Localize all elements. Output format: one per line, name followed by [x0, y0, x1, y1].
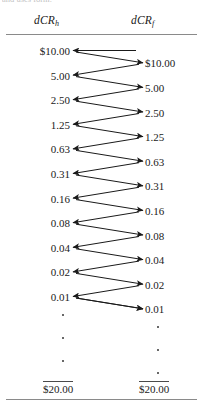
cutoff-text-fragment: and uses form. [2, 0, 122, 4]
left-value-0: $10.00 [40, 46, 70, 57]
right-value-7: 0.08 [145, 231, 164, 242]
arrow-left-to-right-3 [76, 126, 143, 137]
arrow-right-to-left-5 [73, 187, 139, 198]
right-value-5: 0.31 [145, 181, 164, 192]
left-value-3: 1.25 [51, 120, 70, 131]
total-left: $20.00 [43, 381, 73, 395]
arrow-left-to-right-2 [76, 101, 143, 112]
arrow-left-to-right-final [76, 298, 143, 309]
column-header-left: dCRh [34, 14, 59, 28]
right-value-3: 1.25 [145, 132, 164, 143]
right-value-10: 0.01 [145, 304, 164, 315]
ellipsis-dot-right-0 [157, 326, 159, 328]
arrow-left-to-right-5 [76, 175, 143, 186]
arrow-right-to-left-0 [73, 64, 139, 75]
arrow-right-to-left-9 [73, 286, 139, 297]
right-value-8: 0.04 [145, 255, 164, 266]
column-header-right-symbol: dCR [131, 14, 152, 26]
header-rule [6, 34, 197, 35]
arrow-right-to-left-2 [73, 114, 139, 125]
arrow-right-to-left-1 [73, 89, 139, 100]
arrow-left-to-right-1 [76, 77, 143, 88]
right-value-6: 0.16 [145, 206, 164, 217]
arrow-left-to-right-0 [76, 52, 143, 63]
arrow-right-to-left-4 [73, 163, 139, 174]
right-value-4: 0.63 [145, 157, 164, 168]
arrow-right-to-left-6 [73, 212, 139, 223]
left-value-7: 0.08 [51, 218, 70, 229]
ellipsis-dot-right-1 [157, 349, 159, 351]
left-value-10: 0.01 [51, 292, 70, 303]
ellipsis-dot-left-0 [62, 314, 64, 316]
left-value-8: 0.04 [51, 243, 70, 254]
left-value-4: 0.63 [51, 144, 70, 155]
left-value-6: 0.16 [51, 194, 70, 205]
arrow-left-to-right-4 [76, 150, 143, 161]
arrow-left-to-right-8 [76, 249, 143, 260]
footer-rule [6, 399, 197, 400]
ellipsis-dot-right-2 [157, 372, 159, 374]
left-value-1: 5.00 [51, 71, 70, 82]
column-header-left-subscript: h [55, 19, 59, 28]
arrow-right-to-left-3 [73, 138, 139, 149]
ellipsis-dot-left-1 [62, 337, 64, 339]
total-right: $20.00 [139, 381, 169, 395]
column-header-left-symbol: dCR [34, 14, 55, 26]
column-header-right-subscript: f [152, 19, 154, 28]
arrow-left-to-right-10 [76, 298, 143, 309]
column-header-right: dCRf [131, 14, 154, 28]
arrow-right-to-left-8 [73, 261, 139, 272]
right-value-2: 2.50 [145, 108, 164, 119]
ellipsis-dot-left-2 [62, 360, 64, 362]
dcr-allocation-figure: and uses form. dCRh dCRf $10.005.002.501… [0, 0, 203, 418]
left-value-9: 0.02 [51, 267, 70, 278]
right-value-0: $10.00 [145, 58, 175, 69]
arrow-left-to-right-9 [76, 273, 143, 284]
right-value-9: 0.02 [145, 280, 164, 291]
left-value-5: 0.31 [51, 169, 70, 180]
left-value-2: 2.50 [51, 95, 70, 106]
arrow-right-to-left-7 [73, 237, 139, 248]
arrow-left-to-right-7 [76, 224, 143, 235]
arrow-left-to-right-6 [76, 200, 143, 211]
right-value-1: 5.00 [145, 83, 164, 94]
